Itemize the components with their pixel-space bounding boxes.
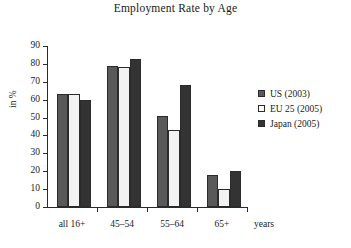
bar <box>207 175 219 207</box>
y-tick <box>43 46 47 47</box>
x-category-label: 55–64 <box>160 219 184 229</box>
y-tick <box>43 100 47 101</box>
bar <box>57 94 69 207</box>
bar <box>230 171 242 207</box>
chart-title: Employment Rate by Age <box>0 2 351 14</box>
y-tick-label: 20 <box>22 165 40 175</box>
x-tick <box>97 208 98 212</box>
bar <box>118 67 130 207</box>
plot-area <box>47 46 247 208</box>
bar <box>168 130 180 207</box>
legend-item[interactable]: Japan (2005) <box>258 116 322 131</box>
bar <box>218 189 230 207</box>
y-tick-label: 40 <box>22 129 40 139</box>
y-tick-label: 70 <box>22 76 40 86</box>
bar <box>157 116 169 207</box>
y-axis-title: in % <box>8 90 18 108</box>
legend-swatch-icon <box>258 90 265 97</box>
legend-item[interactable]: EU 25 (2005) <box>258 101 322 116</box>
y-tick-label: 30 <box>22 147 40 157</box>
y-axis-line <box>47 46 48 208</box>
y-tick-label: 50 <box>22 112 40 122</box>
legend-label: Japan (2005) <box>270 119 319 129</box>
x-tick <box>197 208 198 212</box>
employment-rate-bar-chart: Employment Rate by Age in % years 010203… <box>0 0 351 248</box>
y-tick-label: 10 <box>22 183 40 193</box>
y-tick <box>43 135 47 136</box>
chart-legend: US (2003)EU 25 (2005)Japan (2005) <box>258 86 322 131</box>
y-tick-label: 0 <box>22 201 40 211</box>
y-tick <box>43 189 47 190</box>
x-axis-title: years <box>254 219 274 229</box>
y-tick <box>43 171 47 172</box>
legend-item[interactable]: US (2003) <box>258 86 322 101</box>
legend-label: EU 25 (2005) <box>270 104 322 114</box>
y-tick-label: 90 <box>22 40 40 50</box>
x-category-label: all 16+ <box>59 219 86 229</box>
legend-swatch-icon <box>258 120 265 127</box>
y-tick-label: 60 <box>22 94 40 104</box>
bar <box>68 94 80 207</box>
y-tick <box>43 153 47 154</box>
x-category-label: 45–54 <box>110 219 134 229</box>
y-tick-label: 80 <box>22 58 40 68</box>
bar <box>107 66 119 207</box>
x-tick <box>247 208 248 212</box>
bar <box>80 100 92 207</box>
y-tick <box>43 82 47 83</box>
bar <box>130 59 142 207</box>
legend-label: US (2003) <box>270 89 310 99</box>
y-tick <box>43 118 47 119</box>
bar <box>180 85 192 207</box>
y-tick <box>43 64 47 65</box>
y-tick <box>43 207 47 208</box>
legend-swatch-icon <box>258 105 265 112</box>
x-category-label: 65+ <box>215 219 230 229</box>
x-tick <box>147 208 148 212</box>
